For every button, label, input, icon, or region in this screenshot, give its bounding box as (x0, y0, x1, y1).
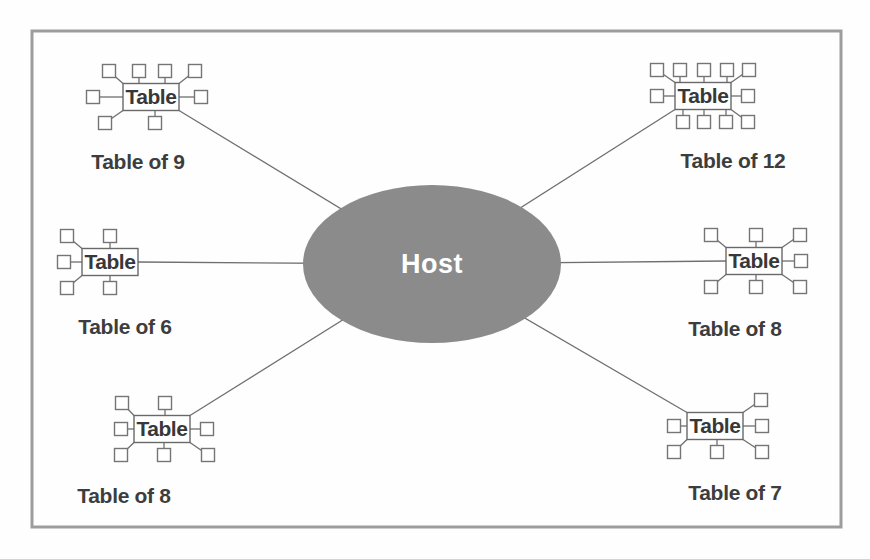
seat-square (677, 116, 690, 129)
table-box-label: Table (137, 417, 188, 440)
seat-square (742, 90, 755, 103)
host-layer: Host (303, 185, 561, 343)
table-caption: Table of 8 (688, 317, 782, 340)
seat-square (87, 91, 100, 104)
table-caption: Table of 7 (688, 481, 781, 504)
seat-square (720, 116, 733, 129)
seat-square (755, 394, 768, 407)
seat-square (159, 397, 172, 410)
star-topology-diagram: Host TableTable of 9TableTable of 12Tabl… (0, 0, 870, 559)
seat-square (115, 423, 128, 436)
table-box-label: Table (690, 414, 741, 437)
seat-square (201, 423, 214, 436)
table-box-label: Table (85, 250, 136, 273)
seat-square (61, 282, 74, 295)
table-caption: Table of 12 (681, 149, 786, 172)
seat-square (158, 449, 171, 462)
seat-square (674, 64, 687, 77)
seat-square (61, 230, 74, 243)
seat-square (750, 229, 763, 242)
seat-square (705, 229, 718, 242)
seat-square (133, 65, 146, 78)
seat-square (750, 281, 763, 294)
table-box-label: Table (678, 84, 729, 107)
seat-square (668, 446, 681, 459)
table-node-bottom-right: TableTable of 7 (668, 394, 782, 505)
figure-canvas: Host TableTable of 9TableTable of 12Tabl… (0, 0, 870, 559)
table-box-label: Table (729, 249, 780, 272)
seat-square (58, 256, 71, 269)
seat-square (794, 281, 807, 294)
table-caption: Table of 8 (77, 484, 171, 507)
seat-square (202, 449, 215, 462)
seat-square (99, 117, 112, 130)
seat-square (115, 449, 128, 462)
seat-square (195, 91, 208, 104)
seat-square (698, 116, 711, 129)
seat-square (668, 420, 681, 433)
seat-square (104, 282, 117, 295)
seat-square (794, 229, 807, 242)
table-caption: Table of 6 (78, 315, 171, 338)
seat-square (756, 420, 769, 433)
host-label: Host (401, 249, 463, 279)
seat-square (742, 116, 755, 129)
table-node-middle-right: TableTable of 8 (688, 229, 807, 341)
seat-square (698, 64, 711, 77)
table-node-middle-left: TableTable of 6 (58, 230, 172, 339)
table-caption: Table of 9 (91, 150, 184, 173)
seat-square (116, 397, 129, 410)
seat-square (103, 65, 116, 78)
seat-square (104, 230, 117, 243)
table-node-top-left: TableTable of 9 (87, 65, 208, 174)
seat-square (743, 64, 756, 77)
seat-square (711, 446, 724, 459)
table-node-top-right: TableTable of 12 (651, 64, 786, 173)
seat-square (149, 117, 162, 130)
table-box-label: Table (126, 85, 177, 108)
seat-square (159, 65, 172, 78)
seat-square (705, 281, 718, 294)
seat-square (651, 64, 664, 77)
seat-square (721, 64, 734, 77)
seat-square (189, 65, 202, 78)
seat-square (756, 446, 769, 459)
seat-square (795, 255, 808, 268)
seat-square (651, 90, 664, 103)
